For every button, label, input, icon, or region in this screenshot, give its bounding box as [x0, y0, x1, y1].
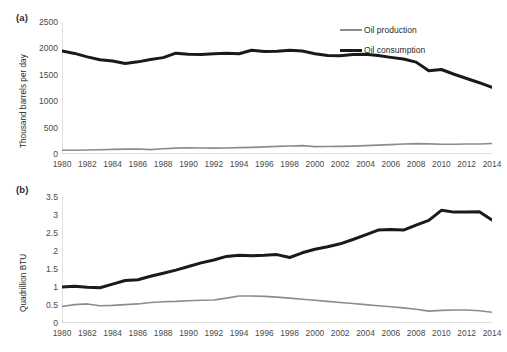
- x-tick-label: 1984: [103, 329, 122, 337]
- x-tick-label: 2002: [331, 160, 350, 168]
- x-tick-label: 2008: [407, 160, 426, 168]
- y-tick-label: 0: [53, 319, 58, 328]
- x-tick-label: 1998: [280, 160, 299, 168]
- x-tick-label: 2010: [432, 329, 451, 337]
- x-tick-label: 2000: [306, 329, 325, 337]
- figure-container: (a) Thousand barrels per day 05001000150…: [0, 0, 507, 352]
- x-tick-label: 1988: [154, 329, 173, 337]
- panel-a-plot-svg: [62, 22, 492, 154]
- x-tick-label: 1986: [129, 329, 148, 337]
- x-tick-label: 2002: [331, 329, 350, 337]
- y-tick-label: 2000: [39, 44, 58, 53]
- x-tick-label: 2014: [483, 329, 502, 337]
- x-tick-label: 1998: [280, 329, 299, 337]
- y-tick-label: 500: [44, 123, 58, 132]
- panel-b-y-tick-labels: 00.511.522.533.5: [0, 197, 58, 323]
- y-tick-label: 0.5: [46, 301, 58, 310]
- x-tick-label: 1980: [53, 329, 72, 337]
- x-tick-label: 1994: [230, 160, 249, 168]
- x-tick-label: 2006: [381, 329, 400, 337]
- y-tick-label: 0: [53, 150, 58, 159]
- legend-label-oil-consumption: Oil consumption: [364, 45, 425, 55]
- x-tick-label: 1994: [230, 329, 249, 337]
- y-tick-label: 2.5: [46, 229, 58, 238]
- x-tick-label: 2014: [483, 160, 502, 168]
- x-tick-label: 1982: [78, 329, 97, 337]
- y-tick-label: 2: [53, 247, 58, 256]
- y-tick-label: 3.5: [46, 193, 58, 202]
- legend-swatch-production-icon: [340, 29, 362, 31]
- chart-panel-b: (b) Quadrillion BTU 00.511.522.533.5 198…: [0, 172, 507, 352]
- panel-a-plot-area: [62, 22, 492, 154]
- legend-label-oil-production: Oil production: [364, 25, 417, 35]
- legend-swatch-consumption-icon: [340, 49, 362, 52]
- x-tick-label: 2000: [306, 160, 325, 168]
- x-tick-label: 1986: [129, 160, 148, 168]
- x-tick-label: 2004: [356, 329, 375, 337]
- y-tick-label: 2500: [39, 18, 58, 27]
- x-tick-label: 1992: [204, 329, 223, 337]
- x-tick-label: 1988: [154, 160, 173, 168]
- x-tick-label: 2012: [457, 329, 476, 337]
- x-tick-label: 1982: [78, 160, 97, 168]
- y-tick-label: 1000: [39, 97, 58, 106]
- panel-a-y-tick-labels: 05001000150020002500: [0, 22, 58, 154]
- x-tick-label: 2012: [457, 160, 476, 168]
- panel-b-plot-svg: [62, 197, 492, 323]
- x-tick-label: 1990: [179, 329, 198, 337]
- panel-b-plot-area: [62, 197, 492, 323]
- y-tick-label: 1500: [39, 71, 58, 80]
- x-tick-label: 1990: [179, 160, 198, 168]
- x-tick-label: 2004: [356, 160, 375, 168]
- x-tick-label: 1984: [103, 160, 122, 168]
- x-tick-label: 2008: [407, 329, 426, 337]
- y-tick-label: 1: [53, 283, 58, 292]
- x-tick-label: 1980: [53, 160, 72, 168]
- x-tick-label: 1996: [255, 329, 274, 337]
- y-tick-label: 3: [53, 211, 58, 220]
- x-tick-label: 1992: [204, 160, 223, 168]
- chart-panel-a: (a) Thousand barrels per day 05001000150…: [0, 0, 507, 178]
- legend-item-oil-production: Oil production: [340, 22, 425, 38]
- legend-item-oil-consumption: Oil consumption: [340, 42, 425, 58]
- x-tick-label: 2006: [381, 160, 400, 168]
- y-tick-label: 1.5: [46, 265, 58, 274]
- x-tick-label: 2010: [432, 160, 451, 168]
- panel-b-label: (b): [16, 184, 28, 195]
- panel-b-x-tick-labels: 1980198219841986198819901992199419961998…: [62, 329, 492, 343]
- x-tick-label: 1996: [255, 160, 274, 168]
- panel-a-legend: Oil production Oil consumption: [340, 22, 425, 62]
